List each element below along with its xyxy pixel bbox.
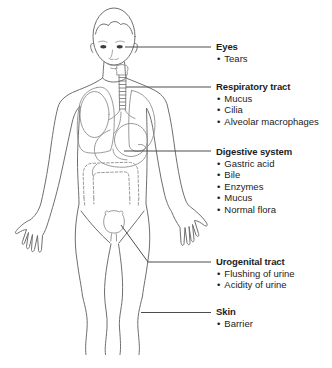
- bronchi: [110, 110, 136, 120]
- left-leg-inner: [105, 244, 112, 355]
- bullet-icon: •: [217, 169, 220, 181]
- large-intestine: [83, 162, 139, 205]
- left-ear: [91, 43, 94, 52]
- left-eye: [100, 45, 106, 48]
- label-section-respiratory-tract: Respiratory tract •Mucus •Cilia •Alveola…: [216, 81, 330, 127]
- list-item-label: Barrier: [224, 318, 253, 330]
- list-item: •Alveolar macrophages: [216, 116, 330, 128]
- bullet-icon: •: [217, 204, 220, 216]
- list-item: •Tears: [216, 53, 330, 65]
- hair: [96, 22, 133, 34]
- list-item: •Flushing of urine: [216, 268, 330, 280]
- bullet-icon: •: [217, 116, 220, 128]
- list-item: •Enzymes: [216, 181, 330, 193]
- list-item-label: Flushing of urine: [224, 268, 294, 280]
- list-item-label: Enzymes: [224, 181, 263, 193]
- immune-barriers-diagram: Eyes •Tears Respiratory tract •Mucus •Ci…: [0, 0, 332, 368]
- right-side-outline: [125, 62, 208, 355]
- label-section-skin: Skin •Barrier: [216, 306, 330, 329]
- list-item: •Cilia: [216, 104, 330, 116]
- list-item-label: Mucus: [224, 93, 252, 105]
- label-section-eyes: Eyes •Tears: [216, 41, 330, 64]
- section-title-respiratory-tract: Respiratory tract: [216, 81, 330, 93]
- bullet-icon: •: [217, 318, 220, 330]
- list-item: •Barrier: [216, 318, 330, 330]
- label-section-digestive-system: Digestive system •Gastric acid •Bile •En…: [216, 146, 330, 215]
- list-item-label: Acidity of urine: [224, 279, 286, 291]
- bullet-icon: •: [217, 268, 220, 280]
- internal-organs: [77, 65, 155, 241]
- section-title-skin: Skin: [216, 306, 330, 318]
- list-item: •Gastric acid: [216, 158, 330, 170]
- bullet-icon: •: [217, 158, 220, 170]
- bullet-icon: •: [217, 104, 220, 116]
- list-item-label: Alveolar macrophages: [224, 116, 319, 128]
- label-section-urogenital-tract: Urogenital tract •Flushing of urine •Aci…: [216, 256, 330, 291]
- list-item: •Mucus: [216, 192, 330, 204]
- bullet-icon: •: [217, 279, 220, 291]
- bullet-icon: •: [217, 93, 220, 105]
- section-title-urogenital-tract: Urogenital tract: [216, 256, 330, 268]
- bullet-icon: •: [217, 192, 220, 204]
- left-lung-lobe: [80, 92, 109, 138]
- right-eye: [117, 45, 123, 48]
- list-item-label: Bile: [224, 169, 240, 181]
- list-item: •Mucus: [216, 93, 330, 105]
- larynx: [116, 65, 128, 75]
- list-item: •Normal flora: [216, 204, 330, 216]
- right-leg-inner: [119, 244, 123, 355]
- list-item-label: Mucus: [224, 192, 252, 204]
- list-item-label: Gastric acid: [224, 158, 274, 170]
- bullet-icon: •: [217, 53, 220, 65]
- section-title-digestive-system: Digestive system: [216, 146, 330, 158]
- bullet-icon: •: [217, 181, 220, 193]
- right-ear: [135, 43, 138, 52]
- eyebrows: [99, 41, 125, 42]
- nose: [109, 50, 119, 60]
- heart: [115, 124, 148, 157]
- list-item-label: Normal flora: [224, 204, 276, 216]
- section-title-eyes: Eyes: [216, 41, 330, 53]
- leader-lines: [121, 47, 211, 313]
- list-item: •Bile: [216, 169, 330, 181]
- list-item: •Acidity of urine: [216, 279, 330, 291]
- left-side-outline: [15, 62, 104, 355]
- list-item-label: Tears: [224, 53, 247, 65]
- list-item-label: Cilia: [224, 104, 242, 116]
- head: [93, 8, 135, 65]
- collar-line: [103, 78, 127, 82]
- groin-creases: [81, 211, 144, 243]
